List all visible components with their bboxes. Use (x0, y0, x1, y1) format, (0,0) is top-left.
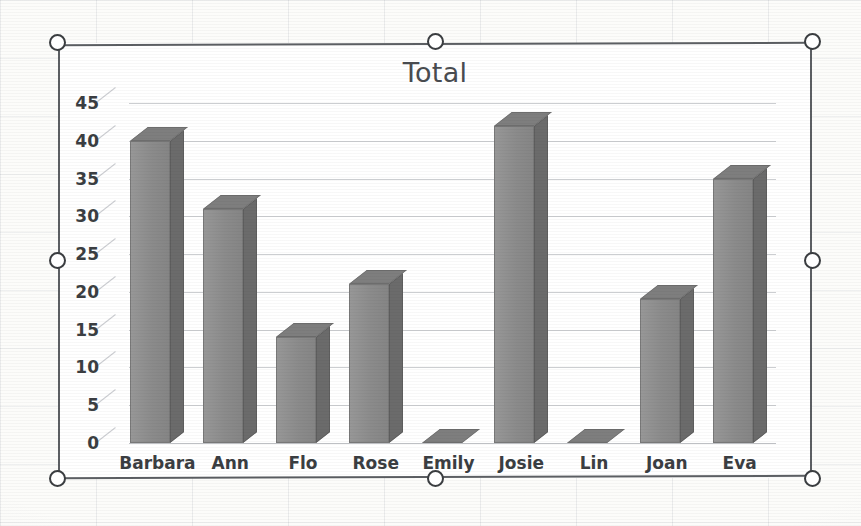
bar-side-face (753, 168, 767, 443)
y-axis-tick-label: 10 (75, 357, 99, 377)
resize-handle-middle-right[interactable] (804, 252, 821, 269)
bar-side-face (680, 289, 694, 443)
x-axis-label: Barbara (119, 453, 195, 473)
y-axis-tick-label: 35 (75, 169, 99, 189)
chart-object[interactable]: Total 051015202530354045 BarbaraAnnFloRo… (58, 43, 812, 478)
bar-rose[interactable]: Rose (349, 270, 389, 443)
bar-front-face (203, 209, 243, 443)
bar-josie[interactable]: Josie (494, 112, 534, 443)
gridline-45 (129, 103, 776, 104)
bar-side-face (389, 273, 403, 443)
y-axis-tick-label: 5 (87, 395, 99, 415)
y-axis-tick-label: 15 (75, 320, 99, 340)
bar-side-face (170, 130, 184, 443)
y-axis-tick-label: 45 (75, 93, 99, 113)
bar-flo[interactable]: Flo (276, 323, 316, 443)
bar-emily[interactable]: Emily (422, 429, 462, 443)
bar-ann[interactable]: Ann (203, 195, 243, 443)
resize-handle-middle-left[interactable] (49, 252, 66, 269)
x-axis-label: Rose (353, 453, 399, 473)
bar-top-face (422, 429, 480, 443)
y-axis-tick-label: 20 (75, 282, 99, 302)
x-axis-label: Josie (499, 453, 544, 473)
bar-front-face (276, 337, 316, 443)
bar-front-face (640, 299, 680, 443)
gridline-40 (129, 141, 776, 142)
bar-top-face (567, 429, 625, 443)
resize-handle-top-left[interactable] (49, 34, 66, 51)
gridline-35 (129, 179, 776, 180)
x-axis-label: Eva (723, 453, 757, 473)
x-axis-label: Lin (580, 453, 609, 473)
resize-handle-bottom-left[interactable] (49, 470, 66, 487)
bar-front-face (713, 179, 753, 443)
y-axis-tick-label: 25 (75, 244, 99, 264)
y-axis-tick-label: 0 (87, 433, 99, 453)
bar-front-face (349, 284, 389, 443)
gridline-0 (129, 443, 776, 444)
bar-side-face (243, 198, 257, 443)
x-axis-label: Flo (288, 453, 317, 473)
bar-lin[interactable]: Lin (567, 429, 607, 443)
x-axis-label: Joan (646, 453, 688, 473)
x-axis-label: Ann (211, 453, 248, 473)
bar-side-face (316, 326, 330, 443)
resize-handle-bottom-right[interactable] (804, 470, 821, 487)
y-axis-tick-label: 30 (75, 206, 99, 226)
resize-handle-top-right[interactable] (804, 33, 821, 50)
bar-joan[interactable]: Joan (640, 285, 680, 443)
bar-barbara[interactable]: Barbara (130, 127, 170, 443)
plot-area[interactable]: 051015202530354045 BarbaraAnnFloRoseEmil… (121, 103, 776, 443)
bar-front-face (130, 141, 170, 443)
resize-handle-bottom-center[interactable] (427, 470, 444, 487)
resize-handle-top-center[interactable] (427, 33, 444, 50)
chart-title: Total (58, 57, 812, 88)
x-axis-label: Emily (422, 453, 474, 473)
y-axis-tick-label: 40 (75, 131, 99, 151)
bar-side-face (534, 115, 548, 443)
bar-eva[interactable]: Eva (713, 165, 753, 443)
bar-front-face (494, 126, 534, 443)
